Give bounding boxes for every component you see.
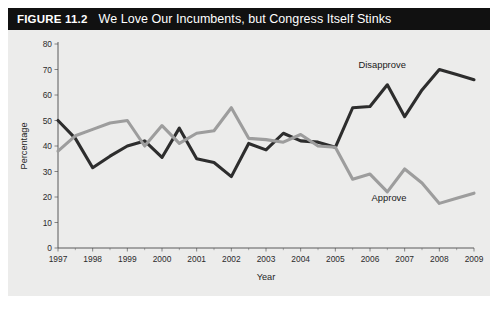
x-tick-label: 2007 [395,254,414,264]
x-tick-label: 1998 [83,254,102,264]
x-tick-label: 2004 [291,254,310,264]
series-line-approve [58,108,474,204]
y-tick-label: 40 [43,141,53,151]
x-axis-tick-labels: 1997199819992000200120022003200420052006… [49,254,484,264]
line-chart-svg: 01020304050607080 1997199819992000200120… [8,30,490,296]
y-tick-label: 10 [43,218,53,228]
x-tick-label: 1997 [49,254,68,264]
series-label-approve: Approve [372,192,407,203]
x-tick-label: 2006 [361,254,380,264]
x-tick-label: 2008 [430,254,449,264]
y-axis-tick-labels: 01020304050607080 [43,39,53,253]
y-axis-title: Percentage [19,123,29,170]
y-tick-label: 30 [43,167,53,177]
y-tick-label: 50 [43,116,53,126]
y-tick-label: 70 [43,65,53,75]
y-tick-label: 60 [43,90,53,100]
x-tick-label: 2000 [153,254,172,264]
axis-lines [58,42,474,248]
series-label-disapprove: Disapprove [358,59,405,70]
data-series-group [58,70,474,204]
x-tick-label: 2005 [326,254,345,264]
series-annotations: DisapproveApprove [358,59,406,203]
x-tick-label: 2003 [257,254,276,264]
figure-number-label: FIGURE 11.2 [17,13,88,25]
figure-title-bar: FIGURE 11.2 We Love Our Incumbents, but … [8,8,490,30]
y-tick-label: 20 [43,192,53,202]
x-axis-title: Year [257,272,276,282]
x-tick-label: 1999 [118,254,137,264]
x-tick-label: 2001 [187,254,206,264]
x-tick-label: 2002 [222,254,241,264]
figure-title-text: We Love Our Incumbents, but Congress Its… [99,12,392,26]
x-tick-label: 2009 [465,254,484,264]
chart-plot-area: 01020304050607080 1997199819992000200120… [8,30,490,296]
y-tick-label: 0 [47,243,52,253]
figure-panel: FIGURE 11.2 We Love Our Incumbents, but … [8,8,490,296]
y-tick-label: 80 [43,39,53,49]
